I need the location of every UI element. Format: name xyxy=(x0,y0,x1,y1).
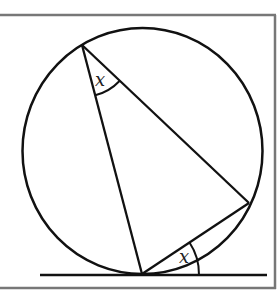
frame xyxy=(0,15,276,289)
tangent-angle-arc xyxy=(190,243,200,276)
circle xyxy=(23,28,263,274)
side-right-tangent xyxy=(142,203,249,274)
side-top-right xyxy=(82,45,249,203)
geometry-diagram: x x xyxy=(0,0,280,298)
tangent-angle-label: x xyxy=(179,246,189,267)
top-angle-label: x xyxy=(95,69,105,90)
side-top-tangent xyxy=(82,45,142,274)
